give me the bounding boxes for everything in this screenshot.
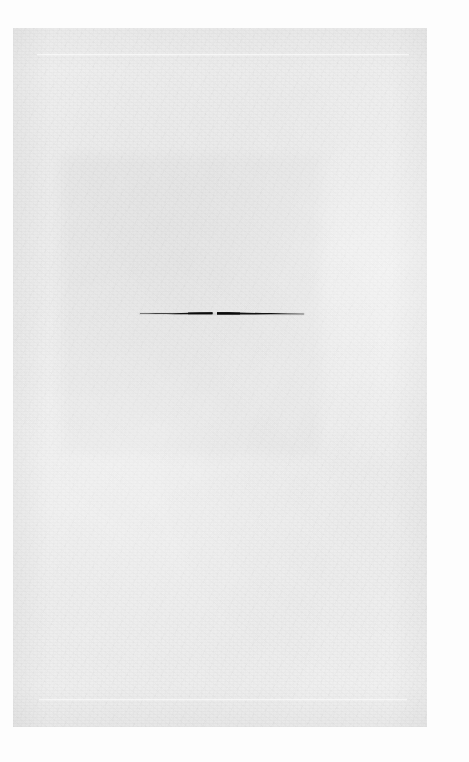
paper-vignette [13,28,427,727]
scanned-document-viewport [0,0,469,762]
paper-sheet [13,28,427,727]
